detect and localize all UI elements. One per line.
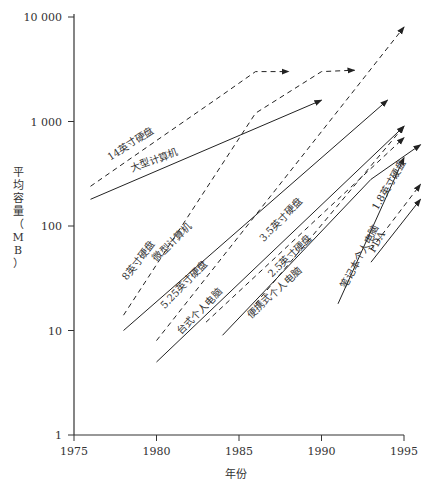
- series-label: 3.5英寸硬盘: [257, 195, 304, 244]
- series-line: [91, 72, 289, 187]
- x-tick-label: 1995: [390, 445, 418, 458]
- series-label: 1.8英寸硬盘: [369, 157, 407, 211]
- series-line: [124, 100, 388, 330]
- series-label: 8英寸硬盘: [119, 238, 157, 282]
- series-label: 笔记本个人电脑: [337, 222, 380, 289]
- series-label: 大型计算机: [128, 145, 179, 173]
- axes: 197519801985199019951101001 00010 000: [24, 11, 419, 458]
- x-axis-title: 年份: [225, 467, 247, 481]
- inline-labels: 14英寸硬盘大型计算机8英寸硬盘微型计算机5.25英寸硬盘台式个人电脑3.5英寸…: [105, 124, 407, 337]
- y-tick-label: 1 000: [31, 116, 63, 129]
- x-tick-label: 1980: [143, 445, 171, 458]
- series-label: 微型计算机: [150, 220, 194, 263]
- x-tick-label: 1985: [225, 445, 253, 458]
- series-line: [124, 70, 355, 315]
- y-tick-label: 100: [41, 220, 62, 233]
- y-tick-label: 10: [48, 325, 62, 338]
- svg-text:平均容量（MB）: 平均容量（MB）: [12, 166, 23, 270]
- chart: 197519801985199019951101001 00010 000 14…: [0, 0, 428, 491]
- x-tick-label: 1975: [60, 445, 88, 458]
- y-tick-label: 10 000: [24, 11, 63, 24]
- y-axis-title: 平均容量（MB）: [12, 166, 23, 270]
- x-tick-label: 1990: [308, 445, 336, 458]
- y-tick-label: 1: [55, 429, 62, 442]
